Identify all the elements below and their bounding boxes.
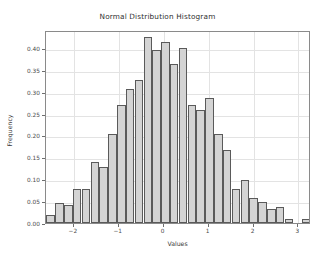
x-axis-tick-label: −1	[103, 228, 133, 234]
y-axis-tick-label: 0.05	[0, 199, 40, 205]
histogram-bar	[91, 162, 100, 223]
histogram-bar	[126, 89, 135, 223]
histogram-bar	[73, 189, 82, 223]
x-axis-tick	[208, 224, 209, 227]
histogram-bars	[46, 32, 309, 223]
histogram-bar	[46, 215, 55, 223]
plot-area	[45, 31, 310, 224]
x-axis-tick-label: 2	[238, 228, 268, 234]
histogram-bar	[214, 134, 223, 223]
x-axis-tick	[118, 224, 119, 227]
histogram-bar	[152, 50, 161, 223]
y-axis-tick	[42, 71, 45, 72]
y-axis-title: Frequency	[6, 91, 13, 171]
histogram-bar	[241, 180, 250, 223]
histogram-bar	[249, 198, 258, 223]
histogram-bar	[285, 219, 294, 223]
histogram-bar	[99, 167, 108, 223]
chart-title: Normal Distribution Histogram	[0, 12, 315, 21]
x-axis-tick	[297, 224, 298, 227]
histogram-bar	[170, 64, 179, 223]
x-axis-tick-label: 0	[148, 228, 178, 234]
x-axis-tick	[253, 224, 254, 227]
y-axis-tick-label: 0.40	[0, 46, 40, 52]
y-axis-tick	[42, 49, 45, 50]
x-axis-tick-label: 1	[193, 228, 223, 234]
histogram-bar	[161, 42, 170, 223]
y-axis-tick-label: 0.35	[0, 68, 40, 74]
histogram-bar	[276, 207, 285, 223]
histogram-bar	[302, 219, 310, 223]
histogram-bar	[55, 203, 64, 223]
y-axis-tick-label: 0.00	[0, 221, 40, 227]
histogram-bar	[117, 105, 126, 223]
y-axis-tick	[42, 136, 45, 137]
x-axis-title: Values	[45, 240, 310, 247]
y-axis-tick-label: 0.10	[0, 177, 40, 183]
histogram-bar	[188, 105, 197, 223]
x-axis-tick-label: 3	[282, 228, 312, 234]
y-axis-tick	[42, 158, 45, 159]
x-axis-tick	[73, 224, 74, 227]
histogram-bar	[108, 134, 117, 223]
histogram-bar	[64, 205, 73, 223]
histogram-bar	[144, 37, 153, 223]
y-axis-tick	[42, 224, 45, 225]
y-axis-tick	[42, 202, 45, 203]
histogram-bar	[205, 98, 214, 223]
y-axis-tick	[42, 115, 45, 116]
histogram-bar	[179, 48, 188, 223]
histogram-bar	[232, 189, 241, 223]
x-axis-tick	[163, 224, 164, 227]
y-axis-tick	[42, 93, 45, 94]
histogram-bar	[196, 110, 205, 223]
histogram-bar	[223, 150, 232, 223]
histogram-figure: Normal Distribution Histogram 0.000.050.…	[0, 0, 315, 258]
y-axis-tick	[42, 180, 45, 181]
x-axis-tick-label: −2	[58, 228, 88, 234]
histogram-bar	[82, 189, 91, 223]
histogram-bar	[258, 202, 267, 223]
histogram-bar	[267, 209, 276, 223]
histogram-bar	[135, 80, 144, 223]
